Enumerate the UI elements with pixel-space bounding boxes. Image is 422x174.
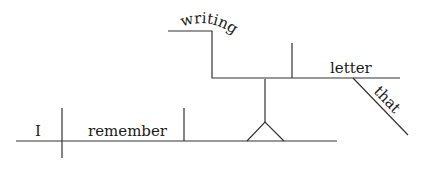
word-verb: remember — [88, 122, 168, 140]
sentence-diagram: I remember letter writing that — [0, 0, 422, 174]
word-subject: I — [35, 122, 41, 140]
pedestal-base — [247, 122, 284, 141]
word-modifier: that — [370, 82, 404, 117]
word-object: letter — [330, 59, 373, 77]
word-gerund: writing — [178, 9, 241, 38]
word-gerund-path: writing — [178, 9, 241, 38]
